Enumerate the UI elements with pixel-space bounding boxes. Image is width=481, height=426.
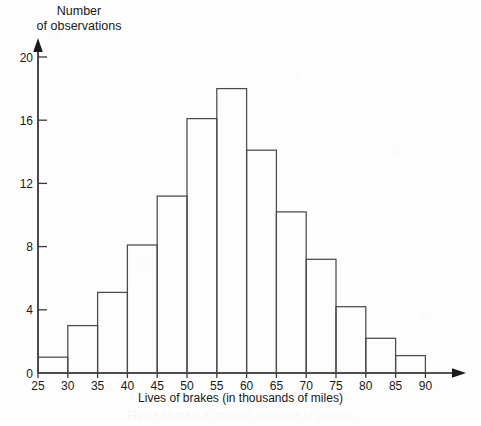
histogram-plot: 20 16 12 8 4 0 (0, 0, 481, 426)
y-tick-label: 16 (20, 114, 34, 128)
histogram-bar (127, 245, 157, 373)
histogram-bar (276, 212, 306, 373)
histogram-figure: Number of observations 20 16 12 8 4 0 (0, 0, 481, 426)
histogram-bar (306, 259, 336, 373)
x-axis-title: Lives of brakes (in thousands of miles) (0, 391, 481, 405)
histogram-bar (38, 357, 68, 373)
y-axis (33, 38, 43, 373)
histogram-bar (396, 356, 426, 373)
histogram-bar (247, 150, 277, 373)
histogram-bar (217, 89, 247, 373)
y-tick-marks (38, 57, 47, 310)
y-tick-label: 12 (20, 177, 34, 191)
histogram-bar (187, 119, 217, 373)
y-tick-label: 4 (26, 303, 33, 317)
y-tick-labels: 20 16 12 8 4 0 (20, 51, 34, 381)
histogram-bar (98, 292, 128, 373)
histogram-bar (336, 307, 366, 373)
page-bleed-text: Figure Numerical method a sample of poli… (0, 409, 481, 421)
histogram-bar (157, 196, 187, 373)
histogram-bars (38, 89, 425, 373)
histogram-bar (366, 338, 396, 373)
y-tick-label: 20 (20, 51, 34, 65)
histogram-bar (68, 326, 98, 373)
y-tick-label: 8 (26, 240, 33, 254)
